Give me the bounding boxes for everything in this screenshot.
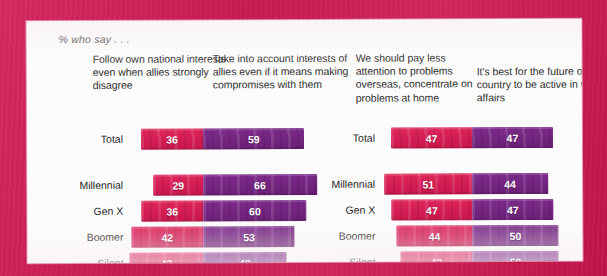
- bar-value-pink: 44: [397, 225, 473, 246]
- bar-value-pink: 43: [130, 252, 204, 263]
- bar-value-purple: 66: [203, 174, 317, 195]
- bar-value-purple: 53: [203, 226, 294, 247]
- bar-segment-pink: 42: [131, 226, 203, 247]
- bar-segment-purple: 59: [203, 128, 305, 149]
- column-header-left-chart-purple: Take into account interests of allies ev…: [213, 52, 353, 92]
- bar-value-purple: 50: [472, 225, 558, 246]
- bar-value-purple: 47: [472, 199, 553, 220]
- chart-row: Silent4348: [27, 252, 327, 263]
- row-label-gen-x: Gen X: [93, 201, 123, 222]
- bar-value-purple: 60: [203, 200, 306, 221]
- bar-value-purple: 59: [203, 128, 305, 149]
- chart-left: Total3659Millennial2966Gen X3660Boomer42…: [27, 112, 328, 261]
- bar-value-purple: 47: [472, 127, 553, 148]
- chart-right: Total4747Millennial5144Gen X4747Boomer44…: [319, 111, 583, 260]
- chart-row: Total3659: [27, 128, 327, 150]
- chart-row: Total4747: [319, 127, 582, 149]
- bar-segment-purple: 47: [472, 127, 553, 148]
- chart-row: Gen X3660: [27, 200, 327, 222]
- row-label-silent: Silent: [97, 253, 123, 263]
- row-label-millennial: Millennial: [79, 175, 123, 196]
- bar-segment-pink: 43: [130, 252, 204, 263]
- bar-segment-pink: 44: [397, 225, 473, 246]
- bar-value-pink: 42: [131, 226, 203, 247]
- bar-segment-pink: 47: [391, 199, 472, 220]
- bar-segment-purple: 53: [203, 226, 294, 247]
- row-label-gen-x: Gen X: [345, 200, 375, 221]
- row-label-boomer: Boomer: [87, 227, 124, 248]
- infographic-card: % who say . . . Follow own national inte…: [26, 19, 582, 263]
- chart-row: Millennial5144: [319, 173, 582, 195]
- bar-value-purple: 50: [472, 251, 558, 263]
- bar-value-pink: 47: [391, 127, 472, 148]
- column-header-right-chart-pink: We should pay less attention to problems…: [356, 51, 481, 104]
- chart-row: Boomer4253: [27, 226, 327, 248]
- chart-row: Silent4250: [319, 251, 582, 263]
- bar-value-purple: 44: [472, 173, 548, 194]
- bar-segment-pink: 29: [153, 174, 203, 195]
- bar-segment-pink: 36: [141, 128, 203, 149]
- bar-value-pink: 36: [141, 200, 203, 221]
- bar-segment-purple: 66: [203, 174, 317, 195]
- bar-value-pink: 42: [400, 251, 472, 263]
- bar-segment-purple: 47: [472, 199, 553, 220]
- row-label-total: Total: [353, 128, 375, 149]
- bar-segment-pink: 51: [384, 173, 472, 194]
- bar-segment-pink: 42: [400, 251, 472, 263]
- row-label-millennial: Millennial: [331, 174, 375, 195]
- chart-row: Boomer4450: [319, 225, 582, 247]
- bar-segment-purple: 50: [472, 251, 558, 263]
- row-label-boomer: Boomer: [339, 226, 376, 247]
- bar-value-purple: 48: [203, 252, 286, 263]
- subtitle: % who say . . .: [59, 33, 130, 45]
- bar-value-pink: 47: [391, 199, 472, 220]
- bar-value-pink: 36: [141, 128, 203, 149]
- column-header-left-chart-pink: Follow own national interests even when …: [93, 52, 228, 92]
- bar-segment-pink: 36: [141, 200, 203, 221]
- chart-row: Millennial2966: [27, 174, 327, 196]
- bar-segment-purple: 48: [203, 252, 286, 263]
- row-label-silent: Silent: [349, 252, 375, 264]
- infographic-frame: % who say . . . Follow own national inte…: [0, 0, 607, 276]
- bar-segment-pink: 47: [391, 127, 472, 148]
- bar-value-pink: 29: [153, 174, 203, 195]
- row-label-total: Total: [101, 129, 123, 150]
- column-header-right-chart-purple: It's best for the future of our country …: [477, 65, 583, 105]
- bar-segment-purple: 44: [472, 173, 548, 194]
- bar-value-pink: 51: [384, 173, 472, 194]
- chart-row: Gen X4747: [319, 199, 582, 221]
- bar-segment-purple: 60: [203, 200, 306, 221]
- bar-segment-purple: 50: [472, 225, 558, 246]
